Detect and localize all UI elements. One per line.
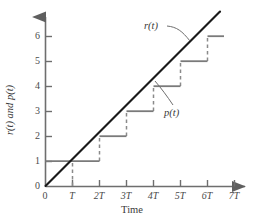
step-curve-label: p(t) bbox=[164, 108, 179, 119]
y-tick-label-0: 0 bbox=[28, 181, 40, 191]
y-tick-label-6: 6 bbox=[28, 31, 40, 41]
x-tick-label-5T: 5T bbox=[175, 191, 186, 201]
y-tick-label-5: 5 bbox=[28, 56, 40, 66]
y-tick-label-3: 3 bbox=[28, 106, 40, 116]
ramp-curve-label: r(t) bbox=[144, 21, 158, 32]
x-tick-label-T: T bbox=[69, 191, 75, 201]
y-tick-label-1: 1 bbox=[28, 156, 40, 166]
x-tick-label-0: 0 bbox=[43, 191, 48, 201]
x-tick-label-3T: 3T bbox=[121, 191, 132, 201]
y-axis-title: r(t) and p(t) bbox=[5, 85, 16, 135]
ramp-and-staircase-figure: 0 1 2 3 4 5 6 0 T 2T 3T 4T 5T 6T 7T Time… bbox=[0, 0, 264, 222]
y-tick-label-2: 2 bbox=[28, 131, 40, 141]
x-axis-title: Time bbox=[121, 205, 143, 216]
ramp-label-leader bbox=[167, 26, 190, 41]
x-tick-label-2T: 2T bbox=[94, 191, 105, 201]
y-tick-label-4: 4 bbox=[28, 81, 40, 91]
ramp-line bbox=[46, 12, 221, 187]
x-tick-label-7T: 7T bbox=[229, 191, 240, 201]
x-tick-label-6T: 6T bbox=[202, 191, 213, 201]
step-treads bbox=[46, 36, 225, 161]
y-axis-ticks bbox=[46, 37, 53, 162]
x-axis-ticks bbox=[73, 180, 235, 187]
step-label-leader bbox=[155, 81, 173, 105]
x-tick-label-4T: 4T bbox=[148, 191, 159, 201]
